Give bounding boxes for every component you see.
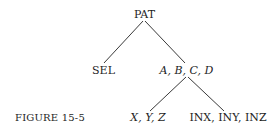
node-xyz: X, Y, Z <box>129 111 166 124</box>
edge-pat-sel <box>104 21 143 63</box>
figure-caption: FIGURE 15-5 <box>15 112 85 123</box>
edge-abcd-xyz <box>150 77 186 111</box>
node-sel: SEL <box>92 64 116 77</box>
edge-abcd-inx <box>188 77 224 111</box>
node-root-pat: PAT <box>134 8 156 21</box>
node-inx-iny-inz: INX, INY, INZ <box>189 111 267 124</box>
node-abcd: A, B, C, D <box>159 64 214 77</box>
edge-pat-abcd <box>145 21 185 63</box>
tree-diagram: PAT SEL A, B, C, D X, Y, Z INX, INY, INZ… <box>0 0 272 133</box>
